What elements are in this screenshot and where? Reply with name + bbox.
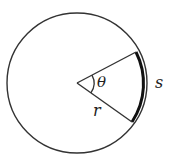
circle-figure xyxy=(0,0,175,159)
arc-segment-s xyxy=(132,52,144,122)
angle-arc-theta xyxy=(91,75,94,93)
arc-label-s: s xyxy=(155,75,163,91)
radius-label-r: r xyxy=(93,103,101,119)
arc-length-diagram: θ s r xyxy=(0,0,175,159)
radius-line-upper xyxy=(77,52,136,83)
angle-label-theta: θ xyxy=(97,75,106,90)
